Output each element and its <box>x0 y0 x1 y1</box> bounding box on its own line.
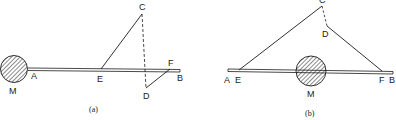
label-a: A <box>224 75 230 85</box>
label-m: M <box>9 86 17 96</box>
mass-m <box>1 56 28 83</box>
label-m: M <box>307 89 315 99</box>
diagram-canvas: M A E C D F B (a) C D A E M F B (b) <box>0 0 396 120</box>
label-b: B <box>177 73 183 83</box>
caption-b: (b) <box>305 109 315 118</box>
label-f: F <box>379 75 385 85</box>
rod-ab <box>28 68 180 72</box>
string-df <box>327 26 382 71</box>
string-ec <box>101 14 142 69</box>
label-f: F <box>168 58 174 68</box>
label-d: D <box>322 29 329 39</box>
dashed-cd <box>322 6 327 26</box>
label-c: C <box>319 0 326 5</box>
panel-b: C D A E M F B (b) <box>224 0 395 118</box>
label-a: A <box>31 71 37 81</box>
label-b: B <box>389 75 395 85</box>
label-d: D <box>143 91 150 101</box>
label-c: C <box>139 2 146 12</box>
label-e: E <box>235 75 241 85</box>
dashed-cd <box>142 14 146 88</box>
caption-a: (a) <box>89 105 98 114</box>
panel-a: M A E C D F B (a) <box>1 2 184 114</box>
mass-m <box>296 56 326 86</box>
label-e: E <box>97 74 103 84</box>
